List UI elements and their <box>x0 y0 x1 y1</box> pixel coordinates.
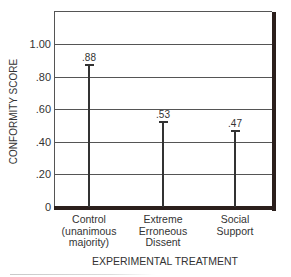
x-category-line: Social <box>195 214 275 226</box>
x-category-line: Extreme <box>123 214 203 226</box>
x-axis-label: EXPERIMENTAL TREATMENT <box>54 255 276 267</box>
bar <box>162 121 164 207</box>
bar <box>88 64 90 207</box>
x-category-line: Control <box>49 214 129 226</box>
footer-divider <box>10 274 155 275</box>
value-label: .88 <box>69 52 109 63</box>
bar-cap <box>159 121 168 123</box>
plot-frame-shadow-right <box>272 12 276 211</box>
gridline <box>54 44 272 45</box>
y-axis-label: CONFORMITY SCORE <box>8 47 19 177</box>
y-tick-label: 0 <box>0 201 51 213</box>
x-category-label: SocialSupport <box>195 214 275 237</box>
x-category-line: majority) <box>49 237 129 249</box>
x-category-line: Dissent <box>123 237 203 249</box>
x-category-label: ExtremeErroneousDissent <box>123 214 203 249</box>
bar-cap <box>231 130 240 132</box>
bar-cap <box>85 64 94 66</box>
x-category-line: Support <box>195 226 275 238</box>
bar <box>234 130 236 207</box>
x-category-label: Control(unanimousmajority) <box>49 214 129 249</box>
gridline <box>54 77 272 78</box>
value-label: .53 <box>143 109 183 120</box>
value-label: .47 <box>215 118 255 129</box>
